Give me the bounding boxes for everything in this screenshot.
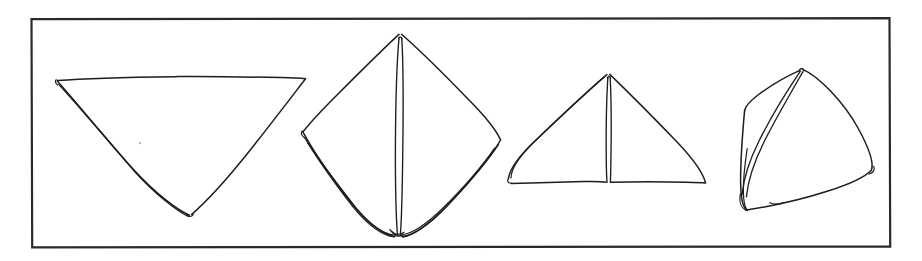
paper-speck xyxy=(139,142,141,144)
figure-3-upright-triangle xyxy=(508,74,706,183)
figure-1-inverted-triangle xyxy=(55,77,305,217)
illustration-canvas xyxy=(0,0,922,261)
figure-4-tilted-triangle xyxy=(740,68,874,210)
napkin-folding-diagram xyxy=(0,0,922,261)
illustration-border xyxy=(32,18,891,247)
figure-2-diamond xyxy=(301,34,500,237)
